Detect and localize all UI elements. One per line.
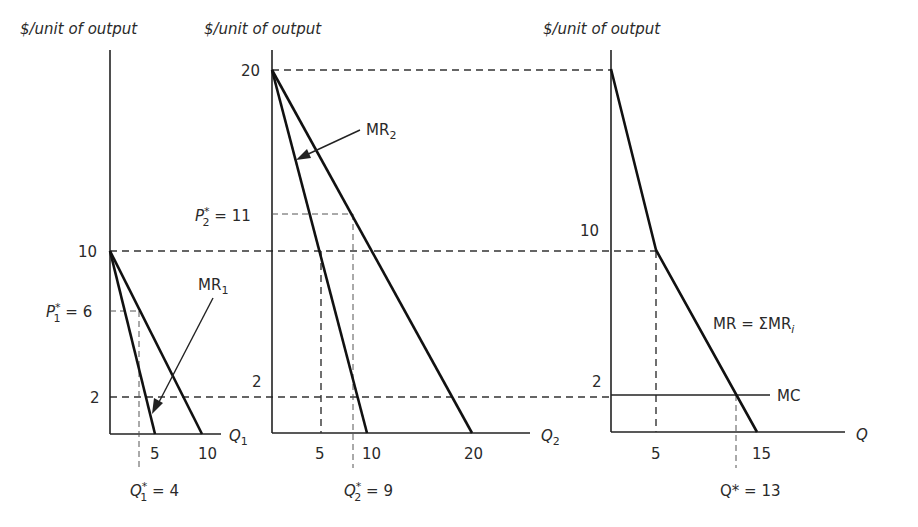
panel3-mr-label: MR = ΣMRi — [713, 315, 794, 336]
price-discrimination-diagram: $/unit of output MR1 10 2 P*1 = 6 Q1 5 1… — [0, 0, 918, 527]
panel1-x-tick-5: 5 — [150, 445, 160, 463]
panel1-price-label: P*1 = 6 — [46, 301, 92, 325]
panel1-y-tick-10: 10 — [78, 243, 97, 261]
panel3-quantity-label: Q* = 13 — [720, 482, 781, 500]
panel2-x-tick-5: 5 — [315, 445, 325, 463]
panel2-x-axis-label: Q2 — [541, 427, 560, 448]
panel2-mr-arrowhead-icon — [296, 149, 311, 160]
panel1-y-axis-label: $/unit of output — [20, 20, 138, 38]
panel2-mr-label: MR2 — [366, 121, 396, 142]
panel1-mr-arrow — [158, 298, 213, 404]
panel2-x-tick-10: 10 — [362, 445, 381, 463]
panel2-y-tick-20: 20 — [241, 62, 260, 80]
panel2-x-tick-20: 20 — [464, 445, 483, 463]
panel-market-1: $/unit of output MR1 10 2 P*1 = 6 Q1 5 1… — [20, 20, 248, 504]
panel1-mr-arrowhead-icon — [152, 398, 163, 414]
panel-market-2: $/unit of output MR2 20 2 P*2 = 11 Q2 5 … — [195, 20, 560, 504]
panel1-mr-curve — [110, 251, 155, 434]
panel1-x-axis-label: Q1 — [229, 427, 248, 448]
panel1-mr-label: MR1 — [198, 276, 228, 297]
panel3-y-axis-label: $/unit of output — [543, 20, 661, 38]
panel2-price-label: P*2 = 11 — [195, 205, 251, 229]
panel2-y-tick-2: 2 — [252, 373, 262, 391]
panel3-x-axis-label: Q — [856, 426, 868, 444]
panel3-x-tick-15: 15 — [752, 445, 771, 463]
panel1-y-tick-2: 2 — [90, 389, 100, 407]
panel2-quantity-label: Q*2 = 9 — [344, 480, 393, 504]
panel1-x-tick-10: 10 — [198, 445, 217, 463]
panel1-quantity-label: Q*1 = 4 — [130, 480, 179, 504]
panel-aggregate: $/unit of output MC MR = ΣMRi 10 2 Q 5 1… — [543, 20, 868, 500]
panel3-mc-label: MC — [777, 387, 800, 405]
panel2-y-axis-label: $/unit of output — [204, 20, 322, 38]
panel3-y-tick-10: 10 — [580, 222, 599, 240]
panel3-x-tick-5: 5 — [651, 445, 661, 463]
panel3-y-tick-2: 2 — [592, 373, 602, 391]
